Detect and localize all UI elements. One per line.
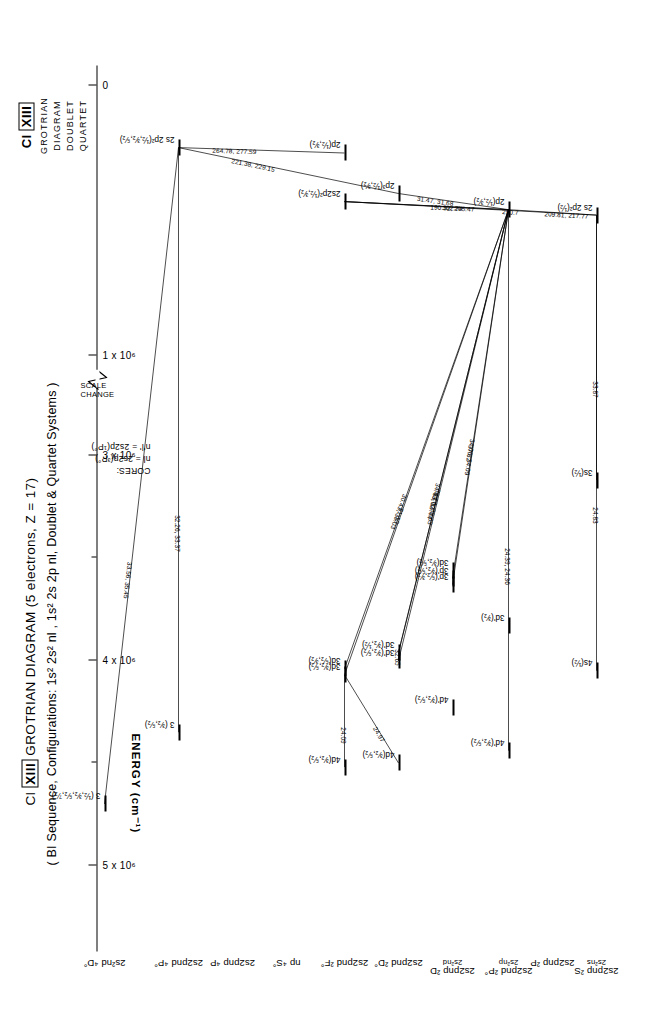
energy-level-marker xyxy=(344,660,346,676)
column-header-line1: 2s2pnd ²D° xyxy=(374,957,423,968)
column-header-line1: 2s2pnd ²P° xyxy=(484,965,532,976)
energy-level-label: 2s2p²(½,³⁄₂) xyxy=(298,188,340,197)
transition-wavelength-label: 32.65 xyxy=(393,649,400,666)
column-header-c6: 2s2pnd ²F° xyxy=(320,957,368,967)
transition-line xyxy=(452,209,508,578)
energy-level-label: 4d(³⁄₂,⁵⁄₂) xyxy=(362,750,394,759)
column-header-line1: 2s²nd ⁴D° xyxy=(83,957,125,968)
energy-level-marker xyxy=(596,662,598,678)
column-header-line1: 2s2pnp ²S xyxy=(574,965,618,976)
transition-lines xyxy=(0,0,670,1015)
column-header-c7: np ⁴S° xyxy=(272,957,300,967)
axis-tick-label: 5 x 10⁶ xyxy=(102,860,135,871)
axis-tick-label: 4 x 10⁶ xyxy=(102,655,135,666)
axis-tick xyxy=(88,84,96,85)
transition-wavelength-label: 264.78, 277.59 xyxy=(212,146,256,154)
energy-level-label: 3d(³⁄₂,⁵⁄₂) xyxy=(416,557,448,566)
energy-level-label: 4d(³⁄₂,⁵⁄₂) xyxy=(308,754,340,763)
column-header-line1: 2s2pnd ⁴P° xyxy=(153,957,202,968)
energy-level-marker xyxy=(452,562,454,578)
column-header-c3: 2s2pnd ²P°2s²np xyxy=(484,957,532,975)
energy-level-marker xyxy=(104,796,106,812)
energy-level-label: 2s 2p²(½) xyxy=(557,202,592,211)
energy-level-marker xyxy=(398,755,400,771)
energy-level-marker xyxy=(344,759,346,775)
energy-level-label: 4d'(³⁄₂,⁵⁄₂) xyxy=(470,737,504,746)
energy-level-label: 2p³(½,³⁄₂) xyxy=(360,180,394,189)
energy-level-label: 2p(½,³⁄₂) xyxy=(309,140,340,149)
column-header-c8: 2s2pnp ⁴P xyxy=(209,957,254,967)
energy-level-marker xyxy=(508,742,510,758)
transition-wavelength-label: 24.39, 24.36 xyxy=(503,548,510,585)
column-header-line1: 2s2pnp ²D xyxy=(430,965,475,976)
energy-level-label: 3d(⁵⁄₂,³⁄₂) xyxy=(308,655,340,664)
energy-level-label: 2s 2p²(½,³⁄₂,⁵⁄₂) xyxy=(119,134,174,143)
axis-tick xyxy=(91,557,96,558)
diagram-stage: Cl XIII GROTRIAN DIAGRAM DOUBLET QUARTET… xyxy=(0,0,670,1015)
column-header-c1: 2s2pnp ²S2s²ns xyxy=(574,957,618,975)
axis-tick xyxy=(88,659,96,660)
cores-line-1: nl = 2s2p(³P°) xyxy=(91,452,150,464)
column-header-line1: np ⁴S° xyxy=(272,957,300,968)
column-header-line1: 2s2pnp ²P xyxy=(530,957,574,968)
column-header-line1: 2s2pnd ²F° xyxy=(320,957,368,968)
column-header-c4: 2s2pnp ²D2s²nd xyxy=(430,957,475,975)
energy-level-marker xyxy=(344,193,346,209)
column-header-c10: 2s²nd ⁴D° xyxy=(83,957,125,967)
scale-change-line: SCALE xyxy=(80,381,114,390)
energy-level-label: 3s(½) xyxy=(571,467,592,476)
scale-change-line: CHANGE xyxy=(80,390,114,399)
transition-wavelength-label: 33.87 xyxy=(591,381,598,398)
transition-wavelength-label: 302.74 xyxy=(442,204,462,212)
energy-level-marker xyxy=(596,207,598,223)
column-header-c5: 2s2pnd ²D° xyxy=(374,957,423,967)
axis-tick xyxy=(91,762,96,763)
energy-axis xyxy=(96,65,97,951)
cores-heading: CORES: xyxy=(91,464,150,476)
transition-wavelength-label: 290.7 xyxy=(502,208,519,216)
axis-tick-label: 0 xyxy=(102,80,108,91)
energy-level-marker xyxy=(344,145,346,161)
energy-level-label: 3 (³⁄₂,⁵⁄₂) xyxy=(144,719,174,728)
axis-tick xyxy=(88,864,96,865)
energy-level-label: 3d'(³⁄₂) xyxy=(481,612,504,621)
energy-level-label: 4s(½) xyxy=(571,657,592,666)
energy-level-marker xyxy=(452,699,454,715)
column-header-line2: 2s²ns xyxy=(574,957,618,965)
column-header-c9: 2s2pnd ⁴P° xyxy=(153,957,202,967)
energy-level-marker xyxy=(178,724,180,740)
transition-wavelength-label: 24.09 xyxy=(339,727,346,744)
energy-level-label: 2p(½,³⁄₂) xyxy=(473,196,504,205)
energy-level-label: 3 (½,³⁄₂,⁵⁄₂,⁷⁄₂) xyxy=(51,791,100,800)
axis-tick xyxy=(88,354,96,355)
column-header-line1: 2s2pnp ⁴P xyxy=(209,957,254,968)
axis-tick-label: 1 x 10⁶ xyxy=(102,350,135,361)
transition-wavelength-label: 32.26, 33.37 xyxy=(173,515,180,552)
column-header-line2: 2s²np xyxy=(484,957,532,965)
energy-level-marker xyxy=(596,472,598,488)
energy-level-label: 4d'(³⁄₂,⁵⁄₂) xyxy=(414,694,448,703)
grotrian-diagram-page: Cl XIII GROTRIAN DIAGRAM DOUBLET QUARTET… xyxy=(0,0,670,1015)
energy-axis-label: ENERGY (cm⁻¹) xyxy=(128,733,142,833)
transition-line xyxy=(344,209,508,668)
scale-change-note: SCALECHANGE xyxy=(80,381,114,398)
energy-level-marker xyxy=(508,617,510,633)
energy-level-marker xyxy=(178,139,180,155)
column-header-c2: 2s2pnp ²P xyxy=(530,957,574,967)
column-header-line2: 2s²nd xyxy=(430,957,475,965)
cores-line-2: n'l' = 2s2p(¹P°) xyxy=(91,440,150,452)
cores-legend: CORES: nl = 2s2p(³P°) n'l' = 2s2p(¹P°) xyxy=(91,440,150,477)
energy-level-label: 3d'(³⁄₂,½) xyxy=(362,639,395,648)
transition-wavelength-label: 24.83 xyxy=(591,507,598,524)
energy-level-marker xyxy=(398,185,400,201)
